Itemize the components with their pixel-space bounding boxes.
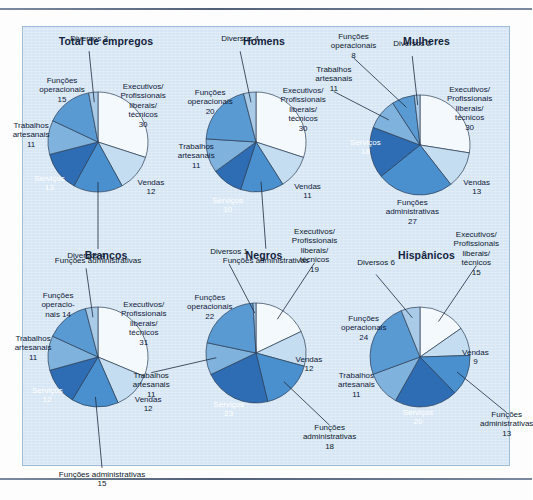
pie-label-executivos: Executivos/ Profissionais liberais/ técn… [447,85,492,132]
pie-label-servicos: Serviços 13 [34,174,65,193]
pie-label-administrativas: Funções administrativas 27 [386,198,439,226]
top-rule [0,8,532,10]
pie-label-diversos: Diversos 6 [357,258,395,267]
pie-label-artesanais: Trabalhos artesanais 11 [338,371,375,399]
pie-label-vendas: Vendas 12 [138,178,165,197]
pie-label-artesanais: Trabalhos artesanais 11 [133,371,170,399]
pie-label-operacionais: Funções operacionais 24 [341,314,386,342]
pie-label-servicos: Serviços 23 [213,400,244,419]
pie-label-executivos: Executivos/ Profissionais liberais/ técn… [292,227,337,274]
pie-label-diversos: Diversos 3 [70,34,108,43]
pie-label-artesanais: Trabalhos artesanais 11 [178,142,215,170]
pie-label-operacionais: Funções operacionais 8 [331,32,376,60]
charts-panel: Total de empregos Homens Mulheres Branco… [22,26,510,466]
pie-label-diversos: Diversos 1 [210,247,248,256]
pie-label-servicos: Serviços 12 [32,386,63,405]
pie-label-vendas: Vendas 12 [296,355,323,374]
pie-label-artesanais: Trabalhos artesanais 11 [13,121,50,149]
pie-label-operacionais: Funções operacio- nais 14 [41,291,74,319]
pie-label-operacionais: Funções operacionais 15 [39,76,84,104]
pie-label-artesanais: Trabalhos artesanais 11 [315,65,352,93]
pie-label-diversos: Diversos 4 [67,251,105,260]
pie-label-diversos: Diversos 2 [393,39,431,48]
pie-label-vendas: Vendas 11 [294,182,321,201]
pie-label-artesanais: Trabalhos artesanais 11 [15,334,52,362]
pie-label-servicos: Serviços 18 [350,138,381,157]
pie-label-layer: Executivos/ Profissionais liberais/ técn… [23,27,509,465]
pie-label-executivos: Executivos/ Profissionais liberais/ técn… [120,82,165,129]
pie-label-executivos: Executivos/ Profissionais liberais/ técn… [121,300,166,347]
pie-label-administrativas: Funções administrativas 18 [303,423,356,451]
pie-label-administrativas: Funções administrativas 13 [480,410,533,438]
pie-label-diversos: Diversos 4 [221,34,259,43]
pie-label-operacionais: Funções operacionais 22 [187,293,232,321]
pie-label-servicos: Serviços 10 [212,196,243,215]
pie-label-vendas: Vendas 9 [462,348,489,367]
pie-label-operacionais: Funções operacionais 20 [187,88,232,116]
pie-label-administrativas: Funções administrativas 15 [59,470,145,489]
pie-label-executivos: Executivos/ Profissionais liberais/ técn… [454,230,499,277]
pie-label-servicos: Serviços 20 [403,408,434,427]
pie-label-vendas: Vendas 13 [463,178,490,197]
